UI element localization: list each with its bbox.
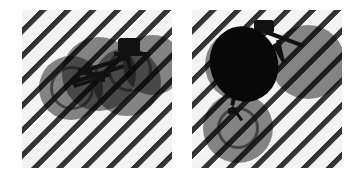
detection-blob-layer-right <box>192 10 342 168</box>
figure-canvas <box>0 0 362 177</box>
panel-right[interactable] <box>192 10 342 168</box>
detection-blob-layer-left <box>22 10 172 168</box>
detection-blob[interactable] <box>200 17 288 110</box>
panel-left[interactable] <box>22 10 172 168</box>
